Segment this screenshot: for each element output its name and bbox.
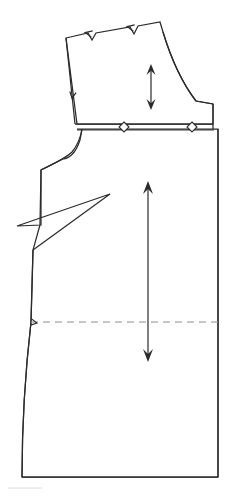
bust-dart: [17, 170, 110, 250]
grainline-arrows-group: [143, 64, 156, 362]
skirt-left-curve: [22, 322, 31, 477]
bodice-left-edge: [66, 38, 75, 124]
skirt-outline: [22, 129, 218, 477]
bodice-grainline-arrow: [147, 64, 156, 110]
bodice-top-edge: [66, 22, 213, 124]
side-seam: [31, 250, 33, 322]
notch-marks-group: [30, 25, 134, 325]
bodice-section: [66, 22, 214, 130]
skirt-grainline-arrow: [143, 181, 153, 362]
pattern-svg: [0, 0, 229, 496]
pattern-drawing-canvas: [0, 0, 229, 496]
skirt-section: [17, 129, 218, 477]
bodice-right-armhole-curve: [163, 32, 213, 104]
